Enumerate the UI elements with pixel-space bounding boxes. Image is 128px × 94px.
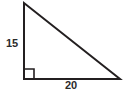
triangle-outline	[24, 3, 120, 79]
horizontal-leg-length-label: 20	[65, 79, 77, 91]
right-angle-marker-icon	[24, 69, 34, 79]
vertical-leg-length-label: 15	[6, 37, 18, 49]
right-triangle-figure: 15 20	[0, 0, 128, 94]
triangle-drawing	[0, 0, 128, 94]
